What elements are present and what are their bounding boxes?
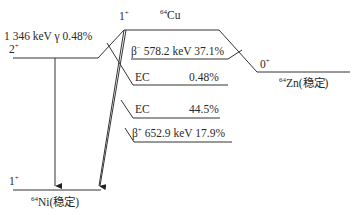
gamma-label: 1 346 keV γ 0.48% — [4, 31, 92, 43]
beta-minus-label: β− 578.2 keV 37.1% — [131, 46, 224, 58]
ec-1-value: 0.48% — [189, 72, 219, 84]
ec-2-label: EC — [135, 104, 150, 116]
beta-plus-label: β+ 652.9 keV 17.9% — [132, 128, 225, 140]
cu64-spin-label: 1+ — [119, 11, 129, 23]
ec-1-label: EC — [135, 72, 150, 84]
zn64-spin-label: 0+ — [260, 59, 270, 71]
zn64-branch — [219, 30, 350, 72]
cu64-nuclide-label: 64Cu — [160, 10, 180, 22]
zn64-nuclide-label: 64Zn(稳定) — [279, 78, 328, 90]
ni64-ground-spin-label: 1+ — [9, 176, 19, 188]
ni64-nuclide-label: 64Ni(稳定) — [31, 197, 79, 209]
ni64-excited-spin-label: 2+ — [9, 44, 19, 56]
ec-2-value: 44.5% — [189, 104, 219, 116]
